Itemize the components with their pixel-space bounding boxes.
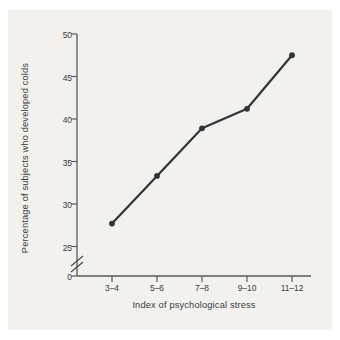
chart-figure: Percentage of subjects who developed col…	[0, 0, 340, 340]
data-point-3–4	[109, 221, 115, 227]
data-point-9–10	[244, 106, 250, 112]
axis-lines	[77, 34, 311, 276]
data-point-7–8	[199, 125, 205, 131]
data-series-line	[112, 55, 292, 223]
data-point-5–6	[154, 173, 160, 179]
y-axis-ticks	[71, 34, 77, 276]
x-axis-ticks	[112, 276, 292, 282]
data-point-markers	[109, 52, 295, 226]
data-point-11–12	[289, 52, 295, 58]
chart-canvas	[0, 0, 340, 340]
